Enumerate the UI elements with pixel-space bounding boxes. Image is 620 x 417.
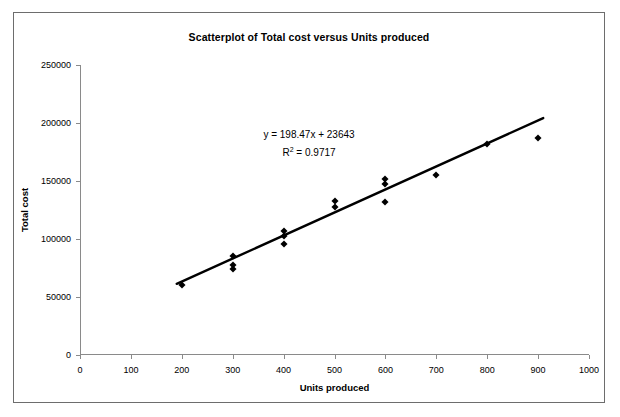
x-tick-label: 700 (429, 365, 444, 375)
y-tick-label: 50000 (46, 292, 71, 302)
x-tick-label: 300 (225, 365, 240, 375)
r-value: = 0.9717 (294, 147, 336, 158)
x-tick (284, 355, 285, 359)
x-tick (589, 355, 590, 359)
x-tick-label: 500 (327, 365, 342, 375)
x-tick-label: 200 (174, 365, 189, 375)
x-tick (80, 355, 81, 359)
x-tick-label: 0 (77, 365, 82, 375)
x-tick (131, 355, 132, 359)
y-tick-label: 250000 (41, 60, 71, 70)
x-tick (335, 355, 336, 359)
y-tick-label: 150000 (41, 176, 71, 186)
y-axis-label: Total cost (19, 188, 30, 232)
x-tick-label: 1000 (579, 365, 599, 375)
x-tick (182, 355, 183, 359)
chart-title: Scatterplot of Total cost versus Units p… (14, 31, 604, 43)
y-tick (76, 355, 80, 356)
x-tick (385, 355, 386, 359)
x-tick-label: 400 (276, 365, 291, 375)
x-tick (487, 355, 488, 359)
x-tick-label: 900 (531, 365, 546, 375)
plot-area: 01002003004005006007008009001000 0500001… (80, 65, 589, 355)
x-tick (436, 355, 437, 359)
y-tick-label: 0 (66, 350, 71, 360)
x-tick-label: 800 (480, 365, 495, 375)
x-tick (538, 355, 539, 359)
regression-annotation: y = 198.47x + 23643 R2 = 0.9717 (214, 127, 404, 160)
regression-r-squared: R2 = 0.9717 (214, 142, 404, 160)
x-tick-label: 600 (378, 365, 393, 375)
x-tick (233, 355, 234, 359)
chart-figure-frame: Scatterplot of Total cost versus Units p… (13, 12, 605, 403)
x-tick-label: 100 (123, 365, 138, 375)
y-tick-label: 200000 (41, 118, 71, 128)
r-symbol: R (282, 147, 289, 158)
x-axis-label: Units produced (80, 382, 589, 393)
regression-equation: y = 198.47x + 23643 (214, 127, 404, 142)
y-tick-label: 100000 (41, 234, 71, 244)
